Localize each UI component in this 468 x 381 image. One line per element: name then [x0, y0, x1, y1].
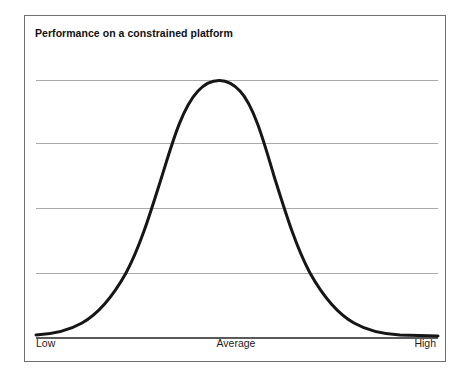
- chart-title: Performance on a constrained platform: [35, 27, 233, 39]
- plot-area: [36, 46, 438, 330]
- chart-page: Performance on a constrained platform Lo…: [0, 0, 468, 381]
- bell-curve-plot: [36, 46, 438, 330]
- chart-frame: Performance on a constrained platform Lo…: [24, 15, 446, 362]
- x-axis-label-high: High: [25, 337, 436, 349]
